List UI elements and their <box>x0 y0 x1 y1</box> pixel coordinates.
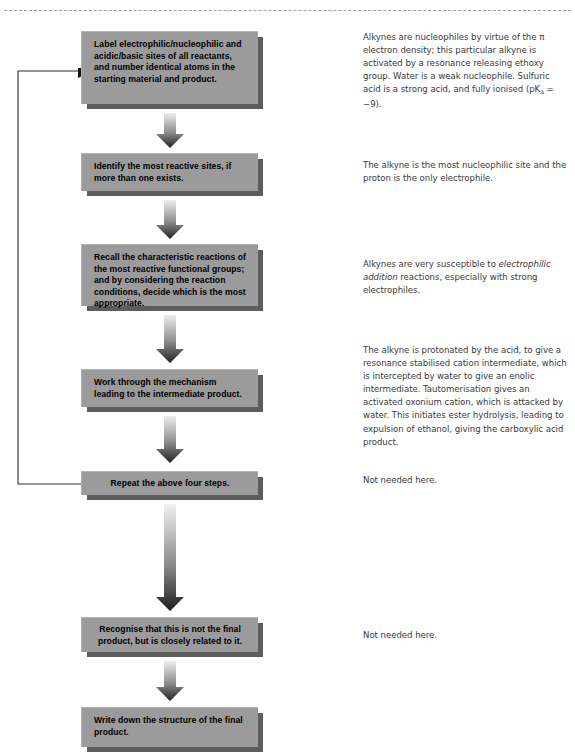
flow-step-text: Work through the mechanism leading to th… <box>94 377 248 400</box>
note-text-part: Alkynes are nucleophiles by virtue of th… <box>363 32 539 42</box>
arrow-down-3 <box>155 315 185 364</box>
flow-step-write-final-structure: Write down the structure of the final pr… <box>81 707 258 747</box>
flow-step-text: Recognise that this is not the final pro… <box>92 624 248 647</box>
note-step-3: Alkynes are very susceptible to electrop… <box>363 258 569 297</box>
flow-step-text: Repeat the above four steps. <box>92 478 248 490</box>
note-text-part: electron density; this particular alkyne… <box>363 45 550 94</box>
flow-step-recall-reactions: Recall the characteristic reactions of t… <box>81 244 258 306</box>
header-divider-rule <box>4 10 571 11</box>
arrow-down-6 <box>155 661 185 702</box>
arrow-down-2 <box>155 200 185 240</box>
flow-step-recognise-not-final: Recognise that this is not the final pro… <box>81 617 258 652</box>
note-step-2: The alkyne is the most nucleophilic site… <box>363 159 569 185</box>
arrow-down-1 <box>155 113 185 149</box>
flow-step-text: Write down the structure of the final pr… <box>94 715 248 738</box>
note-step-6: Not needed here. <box>363 629 569 642</box>
flow-step-text: Recall the characteristic reactions of t… <box>94 252 248 310</box>
flow-step-text: Label electrophilic/nucleophilic and aci… <box>94 39 248 85</box>
arrow-down-5 <box>155 504 185 612</box>
flow-step-identify-reactive-sites: Identify the most reactive sites, if mor… <box>81 153 258 191</box>
note-step-5: Not needed here. <box>363 474 569 487</box>
note-step-1: Alkynes are nucleophiles by virtue of th… <box>363 31 569 111</box>
note-step-4: The alkyne is protonated by the acid, to… <box>363 344 569 449</box>
flow-step-work-mechanism: Work through the mechanism leading to th… <box>81 369 258 407</box>
flow-step-repeat-four-steps: Repeat the above four steps. <box>81 471 258 495</box>
flow-step-label-sites: Label electrophilic/nucleophilic and aci… <box>81 31 258 104</box>
pi-symbol: π <box>539 32 544 42</box>
note-text-part: Alkynes are very susceptible to <box>363 259 499 269</box>
flow-step-text: Identify the most reactive sites, if mor… <box>94 161 248 184</box>
arrow-down-4 <box>155 416 185 464</box>
